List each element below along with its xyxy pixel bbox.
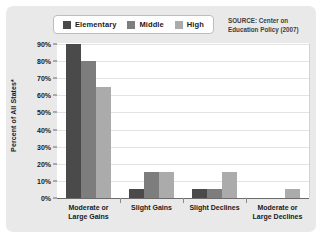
x-axis-label-line: Moderate or (247, 203, 308, 212)
y-axis-tick-label: 80% (37, 58, 57, 65)
bar-group (57, 44, 120, 198)
legend-swatch-high (175, 21, 183, 29)
bar-elementary (66, 44, 81, 198)
x-axis-label-line: Slight Declines (184, 203, 245, 212)
bar-high (285, 189, 300, 198)
bar-high (159, 172, 174, 198)
x-axis-label-line: Large Declines (247, 212, 308, 221)
y-axis-tick-label: 10% (37, 177, 57, 184)
legend-item-middle: Middle (127, 20, 163, 29)
x-axis-label: Moderate orLarge Declines (246, 203, 309, 222)
bar-groups (57, 44, 309, 198)
y-axis-tick-label: 40% (37, 126, 57, 133)
x-axis-label: Slight Declines (183, 203, 246, 222)
legend-label-middle: Middle (139, 20, 163, 29)
plot-area: 0%10%20%30%40%50%60%70%80%90% (57, 43, 310, 198)
y-axis-title: Percent of All States* (10, 56, 17, 176)
x-axis-label-line: Moderate or (58, 203, 119, 212)
bar-middle (144, 172, 159, 198)
source-note-line1: SOURCE: Center on (228, 17, 316, 26)
legend-label-high: High (187, 20, 204, 29)
source-note: SOURCE: Center on Education Policy (2007… (228, 17, 316, 34)
bar-high (96, 87, 111, 198)
legend-item-high: High (175, 20, 204, 29)
legend-label-elementary: Elementary (75, 20, 116, 29)
y-axis-tick-label: 20% (37, 160, 57, 167)
y-axis-tick-label: 70% (37, 75, 57, 82)
legend-swatch-middle (127, 21, 135, 29)
bar-group (246, 44, 309, 198)
source-note-line2: Education Policy (2007) (228, 26, 316, 35)
y-axis-tick-label: 30% (37, 143, 57, 150)
bar-elementary (129, 189, 144, 198)
x-axis-labels: Moderate orLarge GainsSlight GainsSlight… (57, 203, 309, 222)
y-axis-tick-label: 0% (41, 195, 57, 202)
x-axis-label-line: Large Gains (58, 212, 119, 221)
chart-legend: Elementary Middle High (53, 15, 214, 34)
y-axis-tick-label: 90% (37, 41, 57, 48)
bar-high (222, 172, 237, 198)
legend-swatch-elementary (63, 21, 71, 29)
x-axis-label: Moderate orLarge Gains (57, 203, 120, 222)
chart-figure: Elementary Middle High SOURCE: Center on… (0, 0, 322, 244)
bar-elementary (192, 189, 207, 198)
bar-middle (81, 61, 96, 198)
bar-group (120, 44, 183, 198)
x-axis-label: Slight Gains (120, 203, 183, 222)
x-axis-label-line: Slight Gains (121, 203, 182, 212)
bar-middle (207, 189, 222, 198)
y-axis-tick-label: 50% (37, 109, 57, 116)
legend-item-elementary: Elementary (63, 20, 116, 29)
bar-group (183, 44, 246, 198)
y-axis-tick-label: 60% (37, 92, 57, 99)
